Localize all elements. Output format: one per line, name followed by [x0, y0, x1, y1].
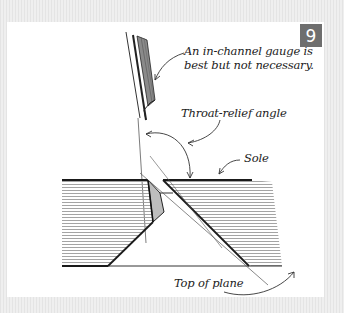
- throat-relief-label: Throat-relief angle: [181, 106, 287, 120]
- in-channel-gauge: [126, 32, 155, 120]
- plane-body-right: [163, 180, 282, 266]
- top-of-plane-label: Top of plane: [174, 276, 243, 290]
- gauge-label-line2: best but not necessary.: [184, 58, 314, 72]
- sole-label: Sole: [244, 151, 269, 165]
- gauge-label-line1: An in-channel gauge is: [184, 44, 313, 58]
- plane-body-left: [62, 180, 153, 266]
